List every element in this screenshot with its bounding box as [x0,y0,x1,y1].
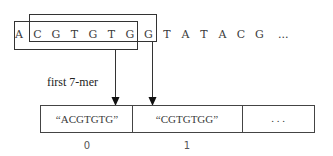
sequence-letter: A [14,28,24,41]
arrow-second-head [149,97,157,106]
sequence-letter: G [89,28,98,41]
first-kmer-label: first 7-mer [47,75,98,89]
sequence-letter: G [255,28,264,41]
sequence-letter: G [52,28,61,41]
array-value-1: “CGTGTGG” [156,113,218,125]
array-index-1: 1 [184,140,190,151]
sequence-letter: T [71,28,79,41]
sequence-letter: A [218,28,228,41]
sequence-letter: G [144,28,153,41]
sequence-letter: T [108,28,116,41]
sequence-letter: A [181,28,191,41]
sequence-letter: T [163,28,171,41]
sequence-ellipsis: ... [278,28,289,41]
sequence-letter: C [237,28,245,41]
sequence-letter: G [126,28,135,41]
sequence: ACGTGTGGTATACG [14,28,264,41]
arrow-first-head [112,97,120,106]
array-value-ellipsis: . . . [271,112,285,124]
array-index-0: 0 [84,140,90,151]
sequence-letter: T [200,28,208,41]
sequence-letter: C [33,28,41,41]
array-value-0: “ACGTGTG” [56,113,118,125]
kmer-diagram: ACGTGTGGTATACG ... first 7-mer “ACGTGTG”… [0,0,333,156]
